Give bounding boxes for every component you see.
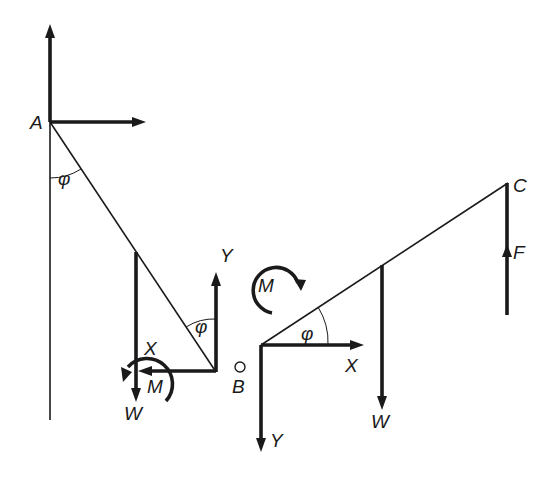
left-panel: A φ Y φ X M W xyxy=(29,24,245,424)
right-panel: C F M φ X B Y W xyxy=(232,175,527,452)
label-F: F xyxy=(513,242,526,263)
arrowhead-up-icon xyxy=(45,24,55,38)
label-M-right: M xyxy=(258,275,274,296)
label-phi-A: φ xyxy=(58,168,70,189)
arrowhead-left-icon xyxy=(138,366,152,376)
arrowhead-down-icon xyxy=(377,396,387,410)
label-Y-left: Y xyxy=(220,245,234,266)
label-phi-right: φ xyxy=(301,323,313,344)
rod-AB xyxy=(50,122,216,372)
rod-BC xyxy=(261,183,508,345)
label-phi-B: φ xyxy=(195,316,207,337)
angle-arc-phi-right xyxy=(318,307,328,345)
arrowhead-up-icon xyxy=(211,272,221,286)
arrowhead-moment-icon xyxy=(121,367,132,382)
pin-B-marker xyxy=(235,362,245,372)
arrowhead-down-icon xyxy=(256,438,266,452)
label-Y-right: Y xyxy=(270,430,284,451)
free-body-diagram: A φ Y φ X M W C F M φ X B xyxy=(0,0,555,482)
label-W-right: W xyxy=(371,411,391,432)
arrowhead-moment-icon xyxy=(294,279,306,291)
arrowhead-right-icon xyxy=(132,117,146,127)
label-W-left: W xyxy=(124,403,144,424)
arrowhead-right-icon xyxy=(350,340,364,350)
label-B: B xyxy=(232,376,245,397)
label-M-left: M xyxy=(147,376,163,397)
arrowhead-down-icon xyxy=(131,388,141,402)
label-C: C xyxy=(513,175,527,196)
label-A: A xyxy=(29,112,43,133)
label-X-left: X xyxy=(143,338,158,359)
label-X-right: X xyxy=(344,355,359,376)
arrowhead-up-icon xyxy=(502,244,512,257)
